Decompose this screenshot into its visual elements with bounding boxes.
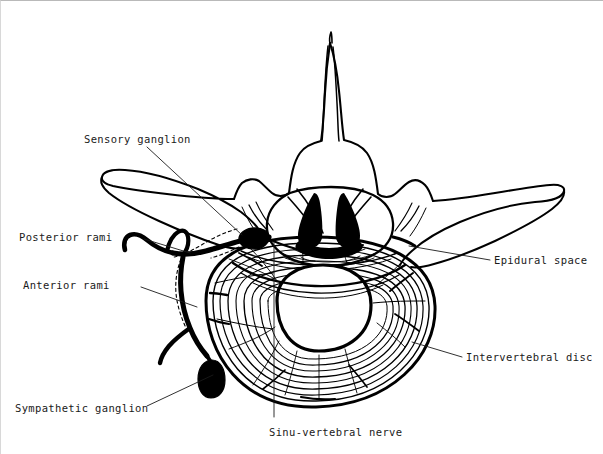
label-sinu-vertebral-nerve: Sinu-vertebral nerve <box>269 426 402 438</box>
vertebra-diagram-svg <box>1 1 603 454</box>
label-intervertebral-disc: Intervertebral disc <box>466 351 593 363</box>
spinal-nerve-left <box>124 228 269 373</box>
label-anterior-rami: Anterior rami <box>23 279 110 291</box>
sympathetic-ganglion <box>198 360 225 398</box>
spinous-process <box>234 32 433 201</box>
label-posterior-rami: Posterior rami <box>19 231 112 243</box>
laminae <box>242 202 426 236</box>
leader-anterior-rami <box>141 287 197 307</box>
label-sensory-ganglion: Sensory ganglion <box>84 133 191 145</box>
anatomical-figure: Sensory ganglion Posterior rami Anterior… <box>0 0 603 454</box>
label-epidural-space: Epidural space <box>494 254 587 266</box>
spinal-nerve-right <box>393 237 415 246</box>
label-sympathetic-ganglion: Sympathetic ganglion <box>15 402 148 414</box>
